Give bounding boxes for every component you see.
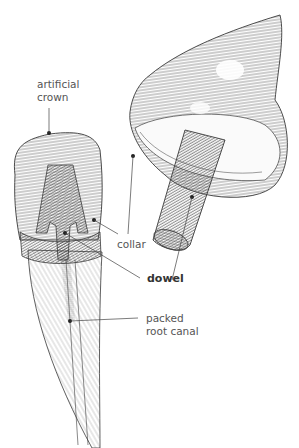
label-packed-root-canal-line2: root canal	[146, 325, 199, 338]
label-packed-root-canal: packed root canal	[146, 312, 199, 338]
label-artificial-crown-line2: crown	[37, 91, 79, 104]
label-artificial-crown-line1: artificial	[37, 78, 79, 91]
label-artificial-crown: artificial crown	[37, 78, 79, 104]
label-collar: collar	[117, 238, 146, 251]
detached-crown	[130, 15, 288, 255]
dental-crown-illustration	[0, 0, 299, 448]
diagram-canvas: artificial crown collar dowel packed roo…	[0, 0, 299, 448]
label-dowel: dowel	[147, 272, 184, 285]
label-packed-root-canal-line1: packed	[146, 312, 199, 325]
tooth-with-crown	[14, 131, 102, 448]
